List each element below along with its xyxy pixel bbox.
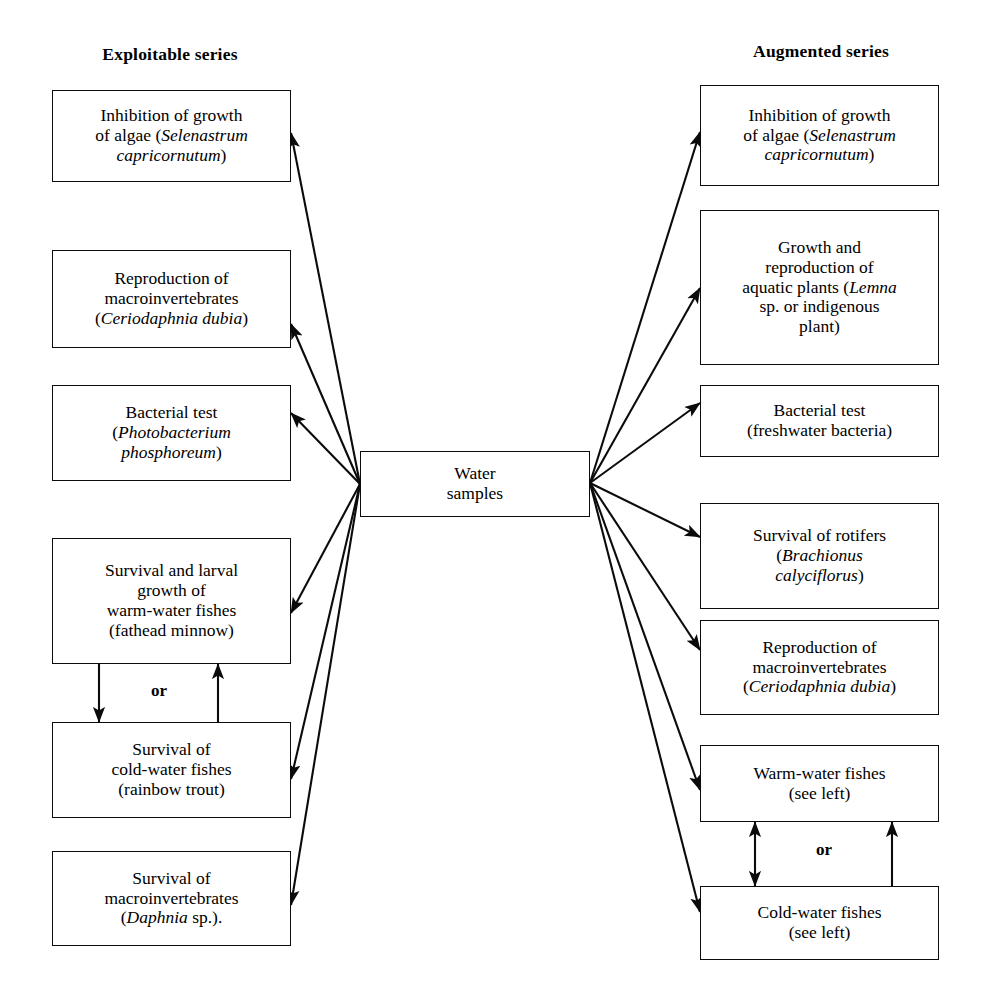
- au-warmfish-line-2: (see left): [789, 783, 851, 803]
- au-macroinv-species: Ceriodaphnia dubia: [749, 676, 890, 696]
- ex-macroinv-paren-close: ): [242, 308, 248, 328]
- heading-exploitable-series: Exploitable series: [52, 44, 288, 65]
- ex-warmfish-line-4: (fathead minnow): [109, 620, 234, 640]
- au-plants-line-4: sp. or indigenous: [759, 296, 879, 316]
- node-water-samples[interactable]: Water samples: [360, 451, 590, 517]
- au-algae-genus: Selenastrum: [809, 125, 896, 145]
- water-samples-line-1: Water: [454, 463, 495, 483]
- au-algae-paren-close: ): [869, 144, 875, 164]
- ex-algae-species: capricornutum: [117, 145, 221, 165]
- or-label-left: or: [122, 681, 196, 701]
- node-ex-survival-macroinvertebrates[interactable]: Survival of macroinvertebrates (Daphnia …: [52, 851, 291, 946]
- ex-bacteria-line-1: Bacterial test: [126, 402, 218, 422]
- ex-algae-paren-close: ): [221, 145, 227, 165]
- connector-to-ex-macroinv: [291, 324, 360, 484]
- au-macroinv-line-2: macroinvertebrates: [752, 657, 886, 677]
- au-plants-line-3a: aquatic plants (: [742, 277, 849, 297]
- node-au-survival-rotifers[interactable]: Survival of rotifers (Brachionus calycif…: [700, 503, 939, 609]
- au-plants-line-5: plant): [799, 316, 840, 336]
- node-ex-inhibition-algae[interactable]: Inhibition of growth of algae (Selenastr…: [52, 90, 291, 182]
- ex-warmfish-line-2: growth of: [137, 580, 206, 600]
- ex-warmfish-line-1: Survival and larval: [105, 560, 238, 580]
- connector-to-au-rotifers: [590, 483, 700, 537]
- ex-coldfish-line-2: cold-water fishes: [111, 759, 231, 779]
- connector-to-au-warmfish: [590, 483, 700, 790]
- connector-to-ex-daphnia: [291, 484, 360, 905]
- au-plants-line-1: Growth and: [778, 237, 861, 257]
- au-plants-genus: Lemna: [849, 277, 897, 297]
- connector-to-ex-coldfish: [291, 484, 360, 779]
- au-algae-line-2a: of algae (: [743, 125, 809, 145]
- connector-to-ex-bacteria: [291, 413, 360, 484]
- ex-bacteria-species: phosphoreum: [121, 442, 216, 462]
- connector-to-ex-warmfish: [291, 484, 360, 613]
- ex-bacteria-genus: Photobacterium: [118, 422, 231, 442]
- au-macroinv-paren-close: ): [890, 676, 896, 696]
- au-rotifers-paren-close: ): [858, 565, 864, 585]
- au-rotifers-species: calyciflorus: [775, 565, 858, 585]
- au-macroinv-line-1: Reproduction of: [762, 637, 876, 657]
- au-bacteria-line-1: Bacterial test: [774, 400, 866, 420]
- ex-macroinv-species: Ceriodaphnia dubia: [101, 308, 242, 328]
- node-au-cold-water-fishes[interactable]: Cold-water fishes (see left): [700, 886, 939, 960]
- node-au-reproduction-macroinvertebrates[interactable]: Reproduction of macroinvertebrates (Ceri…: [700, 620, 939, 715]
- node-au-aquatic-plants[interactable]: Growth and reproduction of aquatic plant…: [700, 210, 939, 365]
- au-coldfish-line-2: (see left): [789, 922, 851, 942]
- ex-algae-line-1: Inhibition of growth: [101, 105, 243, 125]
- figure-canvas: Exploitable series Augmented series Wate…: [0, 0, 982, 1007]
- ex-warmfish-line-3: warm-water fishes: [107, 600, 237, 620]
- ex-bacteria-paren-close: ): [216, 442, 222, 462]
- au-algae-line-1: Inhibition of growth: [749, 105, 891, 125]
- node-ex-cold-water-fishes[interactable]: Survival of cold-water fishes (rainbow t…: [52, 722, 291, 818]
- heading-augmented-series: Augmented series: [703, 41, 939, 62]
- connector-to-au-coldfish: [590, 483, 700, 912]
- au-algae-species: capricornutum: [765, 144, 869, 164]
- node-ex-warm-water-fishes[interactable]: Survival and larval growth of warm-water…: [52, 538, 291, 664]
- ex-macroinv-line-2: macroinvertebrates: [104, 288, 238, 308]
- node-ex-reproduction-macroinvertebrates[interactable]: Reproduction of macroinvertebrates (Ceri…: [52, 250, 291, 348]
- au-rotifers-line-1: Survival of rotifers: [753, 525, 886, 545]
- connector-to-au-bacteria: [590, 403, 700, 483]
- ex-daphnia-line-2: macroinvertebrates: [104, 888, 238, 908]
- au-rotifers-genus: Brachionus: [782, 545, 863, 565]
- ex-algae-genus: Selenastrum: [161, 125, 248, 145]
- connector-to-ex-algae: [291, 133, 360, 484]
- ex-macroinv-line-1: Reproduction of: [114, 268, 228, 288]
- connector-to-au-algae: [590, 132, 700, 483]
- connector-to-au-macroinv: [590, 483, 700, 650]
- au-plants-line-2: reproduction of: [765, 257, 873, 277]
- node-ex-bacterial-test[interactable]: Bacterial test (Photobacterium phosphore…: [52, 385, 291, 481]
- or-label-right: or: [787, 840, 861, 860]
- node-au-inhibition-algae[interactable]: Inhibition of growth of algae (Selenastr…: [700, 85, 939, 186]
- ex-coldfish-line-3: (rainbow trout): [118, 779, 224, 799]
- ex-algae-line-2a: of algae (: [95, 125, 161, 145]
- water-samples-line-2: samples: [447, 483, 503, 503]
- au-bacteria-line-2: (freshwater bacteria): [747, 420, 892, 440]
- connector-to-au-plants: [590, 288, 700, 483]
- au-coldfish-line-1: Cold-water fishes: [758, 902, 882, 922]
- ex-coldfish-line-1: Survival of: [132, 739, 210, 759]
- ex-daphnia-genus: Daphnia: [127, 907, 188, 927]
- ex-daphnia-suffix: sp.).: [188, 907, 223, 927]
- au-warmfish-line-1: Warm-water fishes: [753, 763, 885, 783]
- ex-daphnia-line-1: Survival of: [132, 868, 210, 888]
- node-au-warm-water-fishes[interactable]: Warm-water fishes (see left): [700, 745, 939, 822]
- node-au-bacterial-test[interactable]: Bacterial test (freshwater bacteria): [700, 385, 939, 457]
